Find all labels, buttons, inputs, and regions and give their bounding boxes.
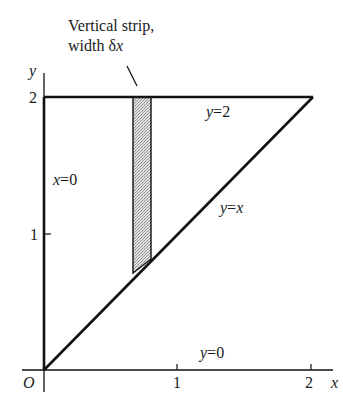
annotation-pointer bbox=[127, 66, 137, 86]
label-y-equals-x: y=x bbox=[218, 199, 243, 217]
x-axis-label: x bbox=[330, 374, 338, 391]
x-tick-label-2: 2 bbox=[305, 374, 313, 391]
x-tick-label-1: 1 bbox=[173, 374, 181, 391]
origin-label: O bbox=[23, 374, 35, 391]
annotation-line-1: Vertical strip, bbox=[68, 17, 154, 35]
y-tick-label-2: 2 bbox=[29, 89, 37, 106]
region-diagram: Vertical strip, width δx y x O 1 2 1 2 y… bbox=[0, 0, 343, 412]
boundary-y-equals-x bbox=[44, 97, 313, 370]
y-tick-label-1: 1 bbox=[30, 226, 38, 243]
label-y-equals-0: y=0 bbox=[198, 344, 224, 362]
annotation-line-2: width δx bbox=[68, 37, 123, 54]
y-axis-label: y bbox=[27, 62, 37, 80]
vertical-strip bbox=[133, 97, 151, 273]
label-y-equals-2: y=2 bbox=[204, 103, 230, 121]
label-x-equals-0: x=0 bbox=[52, 171, 77, 188]
